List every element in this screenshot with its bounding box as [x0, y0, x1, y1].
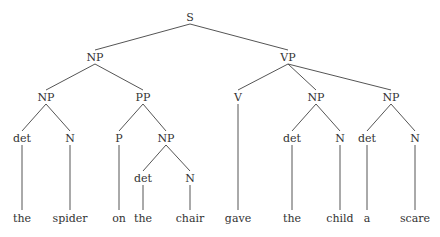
tree-edge	[143, 145, 166, 171]
tree-node-label: det	[283, 133, 301, 144]
tree-node-label: P	[115, 133, 122, 144]
tree-node-label: N	[65, 133, 75, 144]
tree-node-label: PP	[136, 92, 151, 103]
tree-node-label: det	[13, 133, 31, 144]
tree-node-label: N	[410, 133, 420, 144]
tree-edge	[95, 24, 190, 50]
terminal-word: chair	[176, 213, 205, 224]
tree-edge	[238, 64, 288, 90]
tree-node-label: NP	[86, 52, 103, 63]
tree-node-label: N	[185, 173, 195, 184]
tree-edge	[391, 104, 415, 131]
terminal-word: gave	[225, 213, 251, 224]
tree-node-label: NP	[307, 92, 324, 103]
terminal-word: spider	[52, 213, 87, 224]
syntax-tree-edges	[0, 0, 440, 237]
tree-node-label: det	[358, 133, 376, 144]
terminal-word: the	[13, 213, 31, 224]
tree-node-label: V	[234, 92, 242, 103]
tree-node-label: N	[335, 133, 345, 144]
tree-edge	[166, 145, 190, 171]
tree-edge	[46, 64, 95, 90]
tree-edge	[367, 104, 391, 131]
tree-edge	[95, 64, 143, 90]
tree-node-label: det	[134, 173, 152, 184]
tree-node-label: NP	[37, 92, 54, 103]
tree-node-label: VP	[280, 52, 295, 63]
tree-node-label: S	[186, 12, 194, 23]
terminal-word: child	[326, 213, 353, 224]
terminal-word: scare	[400, 213, 430, 224]
tree-edge	[143, 104, 166, 131]
tree-edge	[316, 104, 340, 131]
tree-edge	[292, 104, 316, 131]
tree-edge	[22, 104, 46, 131]
tree-edge	[288, 64, 391, 90]
tree-node-label: NP	[157, 133, 174, 144]
tree-node-label: NP	[382, 92, 399, 103]
terminal-word: the	[134, 213, 152, 224]
terminal-word: a	[364, 213, 371, 224]
terminal-word: on	[112, 213, 126, 224]
tree-edge	[46, 104, 70, 131]
tree-edge	[190, 24, 288, 50]
tree-edge	[119, 104, 143, 131]
terminal-word: the	[283, 213, 301, 224]
